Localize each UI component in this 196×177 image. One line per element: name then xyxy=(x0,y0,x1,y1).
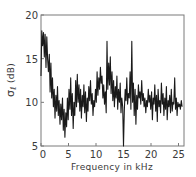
y-axis-label: σℓ (dB) xyxy=(4,63,18,97)
svg-text:σℓ (dB): σℓ (dB) xyxy=(4,63,18,97)
y-tick-label: 15 xyxy=(25,54,38,65)
noise-spectrum-chart: 5101520 0510152025 Frequency in kHz σℓ (… xyxy=(0,0,196,177)
x-tick-label: 25 xyxy=(172,149,185,160)
x-tick-label: 5 xyxy=(65,149,71,160)
x-tick-label: 10 xyxy=(90,149,103,160)
x-axis-label: Frequency in kHz xyxy=(71,162,153,172)
x-tick-label: 20 xyxy=(145,149,158,160)
sigma-series-line xyxy=(41,31,182,146)
y-tick-label: 5 xyxy=(32,141,38,152)
y-tick-label: 20 xyxy=(25,10,38,21)
y-axis-symbol: σ xyxy=(4,90,17,97)
x-tick-label: 15 xyxy=(117,149,130,160)
x-tick-label: 0 xyxy=(40,149,46,160)
y-tick-label: 10 xyxy=(25,97,38,108)
y-axis-unit: (dB) xyxy=(6,63,16,83)
